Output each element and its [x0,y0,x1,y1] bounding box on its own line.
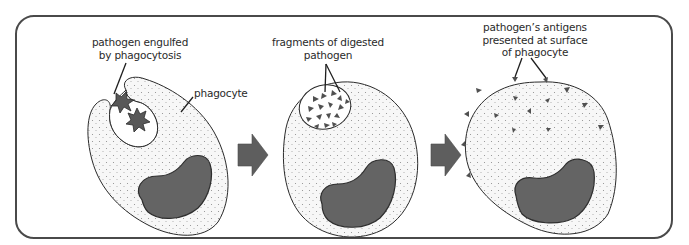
label-line: pathogen’s antigens [470,21,600,34]
label-line: by phagocytosis [82,49,198,62]
stage-presentation [461,58,616,234]
label-line: phagocyte [194,87,248,100]
label-line: presented at surface [470,34,600,47]
leader-pathogen-engulfed [114,63,126,94]
right-block-arrow-icon [431,134,461,176]
label-antigens-presented: pathogen’s antigens presented at surface… [470,21,600,59]
stage-digestion [283,64,417,237]
label-pathogen-engulfed: pathogen engulfed by phagocytosis [82,36,198,61]
leader-antigens-b [531,58,546,78]
label-fragments: fragments of digested pathogen [268,36,388,61]
label-line: fragments of digested [268,36,388,49]
label-line: of phagocyte [470,46,600,59]
right-block-arrow-icon [238,134,268,176]
label-line: pathogen [268,49,388,62]
label-phagocyte: fragments of digested phagocyte [194,87,248,100]
label-line: pathogen engulfed [82,36,198,49]
leader-antigens-a [515,58,522,77]
